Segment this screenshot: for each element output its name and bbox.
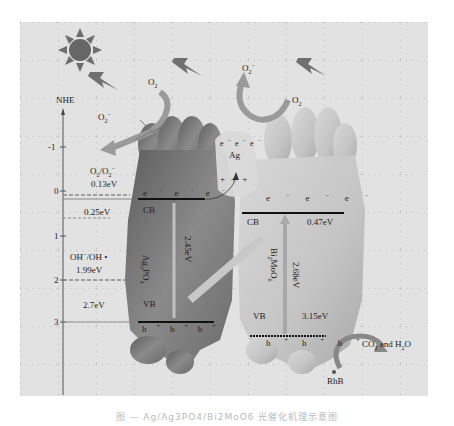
mechanism-diagram bbox=[0, 0, 454, 426]
axis-tick-3: 3 bbox=[54, 318, 59, 327]
left-o2-label: O2 bbox=[148, 78, 158, 87]
bi2moo6-vb-label: VB bbox=[253, 312, 266, 321]
right-o2-radical-label: O2− bbox=[242, 64, 255, 73]
figure-caption: 图 — Ag/Ag3PO4/Bi2MoO6 光催化机理示意图 bbox=[0, 410, 454, 423]
bi2moo6-cb-label: CB bbox=[247, 218, 259, 227]
bi2moo6-electrons: e−e−e− bbox=[266, 194, 384, 203]
oh-radical-label: OH−/OH • bbox=[70, 253, 107, 262]
left-o2-radical-label: O2− bbox=[98, 113, 111, 122]
bi2moo6-holes: h+h+h+ bbox=[266, 339, 374, 348]
bi2moo6-band-gap: 2.68eV bbox=[291, 262, 300, 288]
bi2moo6-vb-value: 3.15eV bbox=[302, 312, 328, 321]
ag3po4-cb-label: CB bbox=[143, 206, 155, 215]
right-o2-label: O2 bbox=[292, 96, 302, 105]
ag3po4-band-gap: 2.45eV bbox=[183, 236, 192, 262]
bi2moo6-cb-value: 0.47eV bbox=[307, 218, 333, 227]
axis-tick-1: 1 bbox=[54, 232, 59, 241]
axis-tick-2: 2 bbox=[54, 276, 59, 285]
ag-holes: +++ bbox=[220, 175, 253, 184]
ag3po4-holes: h+h+h+ bbox=[142, 325, 226, 334]
o2-potential: 0.13eV bbox=[91, 180, 117, 189]
bi2moo6-name: Bi2MoO6 bbox=[269, 248, 278, 282]
oh-potential: 1.99eV bbox=[76, 266, 102, 275]
axis-tick-0: 0 bbox=[54, 187, 59, 196]
ag3po4-vb-value: 2.7eV bbox=[83, 301, 105, 310]
o2-o2-radical-label: O2/O2− bbox=[90, 167, 115, 176]
products-label: CO2 and H2O bbox=[362, 340, 411, 349]
axis-tick-minus1: -1 bbox=[48, 143, 56, 152]
pollutant-label: RhB bbox=[327, 377, 344, 386]
ag3po4-name: Ag3PO4 bbox=[141, 255, 150, 284]
ag3po4-vb-label: VB bbox=[143, 300, 156, 309]
axis-label: NHE bbox=[56, 96, 75, 105]
ag3po4-electrons: e−e−e− bbox=[143, 189, 237, 198]
ag3po4-cb-value: 0.25eV bbox=[84, 208, 110, 217]
ag-name: Ag bbox=[229, 151, 240, 160]
ag-electrons: e−e−e− bbox=[220, 140, 265, 148]
